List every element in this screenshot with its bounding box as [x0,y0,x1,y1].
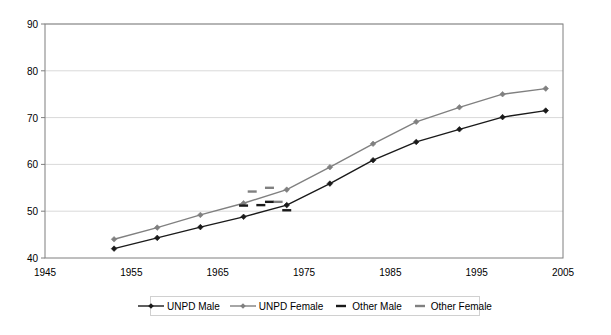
data-point [327,164,333,170]
y-tick-label: 60 [27,159,39,170]
legend-swatch-dash [333,301,349,311]
legend-item-unpd-female[interactable]: UNPD Female [230,301,333,312]
data-point [198,224,204,230]
data-point [111,236,117,242]
chart-legend: UNPD Male UNPD Female Other Male Other F… [150,296,480,316]
data-point [241,214,247,220]
y-tick-label: 50 [27,206,39,217]
legend-label: Other Female [431,301,492,312]
data-point [198,212,204,218]
data-point [111,246,117,252]
data-point [413,119,419,125]
x-tick-label: 1995 [466,267,489,278]
x-tick-label: 1985 [379,267,402,278]
legend-item-other-female[interactable]: Other Female [412,301,492,312]
legend-swatch-line [230,301,256,311]
data-point [500,114,506,120]
legend-swatch-dash [412,301,428,311]
x-axis: 1945195519651975198519952005 [34,267,575,278]
data-point [284,187,290,193]
data-point [543,108,549,114]
x-tick-label: 1965 [207,267,230,278]
legend-swatch-line [138,301,164,311]
y-tick-label: 40 [27,253,39,264]
series-unpd-male [111,108,548,252]
data-point [500,91,506,97]
data-point [543,86,549,92]
legend-label: Other Male [352,301,401,312]
legend-item-other-male[interactable]: Other Male [333,301,411,312]
data-point [154,235,160,241]
data-point [413,139,419,145]
x-tick-label: 2005 [552,267,575,278]
y-axis: 405060708090 [27,19,45,264]
data-point [370,157,376,163]
gridlines [45,24,563,211]
plot-frame [45,24,563,258]
y-tick-label: 90 [27,19,39,30]
data-point [154,225,160,231]
data-point [457,127,463,133]
legend-item-unpd-male[interactable]: UNPD Male [138,301,230,312]
line-chart: 4050607080901945195519651975198519952005 [0,0,611,335]
data-point [457,105,463,111]
x-tick-label: 1945 [34,267,57,278]
y-tick-label: 80 [27,66,39,77]
data-point [370,141,376,147]
data-point [327,181,333,187]
x-tick-label: 1975 [293,267,316,278]
chart-container: 4050607080901945195519651975198519952005… [0,0,611,335]
legend-label: UNPD Female [259,301,323,312]
x-tick-label: 1955 [120,267,143,278]
legend-label: UNPD Male [167,301,220,312]
data-point [284,202,290,208]
series-line [114,111,546,249]
y-tick-label: 70 [27,113,39,124]
